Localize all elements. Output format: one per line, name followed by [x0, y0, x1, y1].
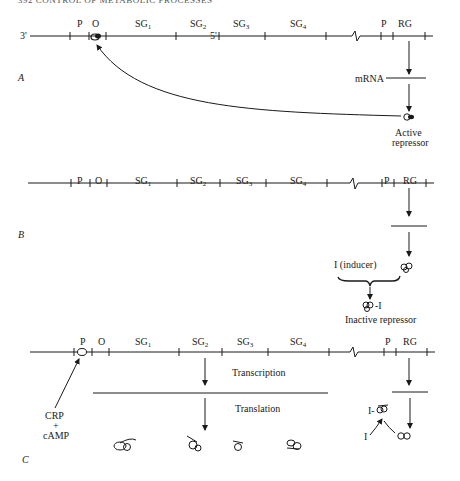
inducer-label: I (inducer)	[334, 259, 376, 271]
dna-strand	[28, 178, 434, 189]
lac-operon-diagram: 392 CONTROL OF METABOLIC PROCESSES 3' 5'…	[0, 0, 460, 481]
panel-c: P O SG1 SG2 SG3 SG4 P RG CRP + cAMP Tran…	[22, 336, 435, 465]
regulator-gene-label: RG	[403, 175, 417, 186]
complex-label: I-	[368, 405, 375, 416]
dna-strand	[30, 347, 435, 357]
mrna-label: mRNA	[355, 73, 385, 84]
repressor-icon	[398, 433, 410, 439]
protein-sg4-icon	[287, 440, 301, 450]
sg4-label: SG4	[290, 336, 307, 349]
operator-label: O	[98, 336, 105, 347]
sg1-label: SG1	[135, 18, 152, 31]
regulator-promoter-label: P	[385, 336, 391, 347]
repressor-icon	[401, 263, 412, 273]
inactive-repressor-icon	[363, 302, 373, 312]
sg4-label: SG4	[290, 18, 307, 31]
panel-label-b: B	[18, 229, 24, 240]
brace-icon	[338, 276, 400, 286]
operator-label: O	[95, 175, 102, 186]
regulator-promoter-label: P	[384, 175, 390, 186]
transcription-label: Transcription	[232, 367, 286, 378]
active-repressor-icon	[404, 114, 414, 120]
translation-label: Translation	[235, 403, 280, 414]
inducer-label: I	[364, 431, 367, 442]
sg2-label: SG2	[190, 18, 207, 31]
sg3-label: SG3	[237, 336, 254, 349]
inactive-repressor-label: Inactive repressor	[345, 314, 417, 325]
regulator-promoter-label: P	[381, 18, 387, 29]
sg1-label: SG1	[135, 175, 152, 188]
promoter-label: P	[77, 175, 83, 186]
regulator-gene-label: RG	[398, 18, 412, 29]
protein-sg3-icon	[233, 441, 243, 451]
running-head: 392 CONTROL OF METABOLIC PROCESSES	[18, 0, 212, 5]
sg2-label: SG2	[190, 175, 207, 188]
promoter-label: P	[77, 18, 83, 29]
complex-label: -I	[375, 300, 382, 311]
protein-sg1-icon	[114, 439, 136, 451]
inducer-repressor-complex-icon	[377, 405, 388, 413]
panel-label-a: A	[17, 72, 25, 83]
inducer-binding-arrow	[370, 419, 382, 435]
sg3-label: SG3	[233, 18, 250, 31]
sg4-label: SG4	[290, 175, 307, 188]
crp-binding-site-icon	[78, 349, 87, 356]
bound-repressor-icon	[91, 34, 101, 41]
panel-b: P O SG1 SG2 SG3 SG4 P RG I (inducer) -I …	[18, 175, 434, 325]
panel-a: 3' 5' P O SG1 SG2 SG3 SG4 P RG mRNA	[17, 18, 433, 148]
sg1-label: SG1	[135, 336, 152, 349]
operator-label: O	[92, 18, 99, 29]
dna-strand	[30, 31, 433, 41]
camp-label: cAMP	[43, 430, 70, 441]
sg3-label: SG3	[236, 175, 253, 188]
repressor-binding-line	[384, 421, 395, 433]
active-repressor-label-2: repressor	[392, 137, 429, 148]
promoter-label: P	[80, 336, 86, 347]
sg2-label: SG2	[192, 336, 209, 349]
regulator-gene-label: RG	[403, 336, 417, 347]
protein-sg2-icon	[187, 436, 201, 451]
panel-label-c: C	[22, 454, 29, 465]
strand-3prime-label: 3'	[20, 30, 27, 41]
crp-arrow	[55, 359, 79, 408]
